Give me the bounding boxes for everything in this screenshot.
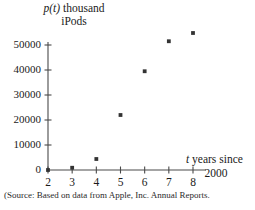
data-point <box>167 39 171 43</box>
source-note: (Source: Based on data from Apple, Inc. … <box>4 190 210 201</box>
tick-marks <box>45 45 194 174</box>
y-tick-label: 40000 <box>0 64 41 75</box>
plot-axes <box>0 0 255 210</box>
y-tick-label: 0 <box>0 164 41 175</box>
y-tick-label: 50000 <box>0 39 41 50</box>
x-tick-label: 8 <box>186 176 200 188</box>
x-tick-label: 3 <box>65 176 79 188</box>
data-point <box>70 166 74 170</box>
y-tick-label: 20000 <box>0 114 41 125</box>
ipod-sales-scatter-figure: p(t) thousand iPods t years since 2000 0… <box>0 0 255 210</box>
axis-lines <box>48 42 206 170</box>
y-tick-label: 10000 <box>0 139 41 150</box>
data-point <box>119 113 123 117</box>
x-tick-label: 7 <box>162 176 176 188</box>
data-point <box>191 31 195 35</box>
data-point <box>94 157 98 161</box>
x-tick-label: 2 <box>41 176 55 188</box>
x-tick-label: 6 <box>138 176 152 188</box>
data-point-markers <box>46 31 195 172</box>
data-point <box>143 69 147 73</box>
data-point <box>46 168 50 172</box>
y-tick-label: 30000 <box>0 89 41 100</box>
x-tick-label: 5 <box>114 176 128 188</box>
x-tick-label: 4 <box>89 176 103 188</box>
